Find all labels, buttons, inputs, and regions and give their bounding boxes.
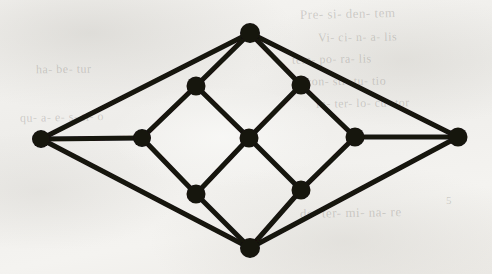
graph-edge	[196, 138, 249, 194]
graph-vertex: lower left inner	[187, 185, 206, 204]
graph-vertex: middle right inner	[346, 128, 365, 147]
graph-vertex: upper left inner	[187, 77, 206, 96]
graph-edge	[41, 139, 250, 248]
graph-vertex: top apex	[240, 23, 260, 43]
graph-edge	[250, 33, 458, 137]
graph-edge	[196, 86, 249, 138]
graph-edge	[196, 194, 250, 248]
graph-canvas: left apexright apextop apexbottom apexup…	[0, 0, 492, 274]
graph-edge	[249, 138, 301, 190]
graph-vertex: bottom apex	[240, 238, 260, 258]
graph-edge	[142, 86, 196, 138]
graph-vertex: right apex	[449, 128, 468, 147]
graph-edge	[249, 85, 301, 138]
graph-vertex: upper right inner	[292, 76, 311, 95]
graph-edge	[196, 33, 250, 86]
graph-edge	[250, 190, 301, 248]
graph-edge	[250, 137, 458, 248]
graph-vertex: left apex	[32, 130, 50, 148]
graph-vertex: lower right inner	[292, 181, 311, 200]
graph-edge	[250, 33, 301, 85]
graph-vertex: middle left inner	[133, 129, 151, 147]
graph-edge	[301, 137, 355, 190]
graph-vertex: center	[240, 129, 259, 148]
graph-edge	[142, 138, 196, 194]
graph-figure: Pre- si- den- temVi- ci- n- a- listem- p…	[0, 0, 492, 274]
graph-edge	[301, 85, 355, 137]
graph-edge	[41, 138, 142, 139]
graph-edge	[41, 33, 250, 139]
